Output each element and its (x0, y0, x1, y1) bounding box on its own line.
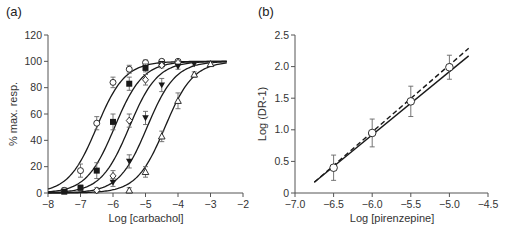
y-tick-label: 80 (30, 81, 42, 93)
filled-square-marker (94, 168, 100, 174)
y-tick-label: 40 (30, 134, 42, 146)
open-circle-marker (94, 120, 100, 126)
filled-square-marker (61, 189, 67, 195)
open-circle-marker (407, 98, 415, 106)
y-tick-label: 20 (30, 160, 42, 172)
y-tick-label: 120 (24, 29, 42, 41)
panel-a-plot: 020406080100120−8−7−6−5−4−3−2 (24, 29, 249, 211)
fitted-curve (48, 61, 227, 192)
filled-inverted-triangle-marker (110, 180, 117, 186)
panel-b-x-axis-title: Log [pirenzepine] (350, 212, 434, 224)
panel-a-label: (a) (6, 4, 22, 19)
figure: (a) Log [carbachol] % max. resp. 0204060… (0, 0, 510, 237)
y-tick-label: 100 (24, 55, 42, 67)
y-tick-label: 2.0 (274, 60, 289, 72)
filled-inverted-triangle-marker (158, 82, 165, 88)
y-tick-label: 1.0 (274, 123, 289, 135)
filled-inverted-triangle-marker (142, 115, 149, 121)
filled-inverted-triangle-marker (126, 159, 133, 165)
panel-a-x-axis-title: Log [carbachol] (108, 212, 183, 224)
x-tick-label: −3 (205, 198, 217, 210)
fitted-curve (48, 61, 227, 191)
x-tick-label: −6.5 (323, 198, 344, 210)
chart-canvas: (a) Log [carbachol] % max. resp. 0204060… (0, 0, 510, 237)
y-tick-label: 2.5 (274, 29, 289, 41)
x-tick-label: −4 (172, 198, 184, 210)
filled-square-marker (143, 65, 149, 71)
regression-line (314, 56, 468, 182)
panel-a-y-axis-title: % max. resp. (7, 82, 19, 146)
open-circle-marker (368, 129, 376, 137)
fitted-curve (48, 61, 227, 189)
open-circle-marker (330, 164, 338, 172)
x-tick-label: −5.0 (439, 198, 460, 210)
x-tick-label: −5 (140, 198, 152, 210)
open-circle-marker (110, 79, 116, 85)
y-tick-label: 0 (283, 187, 289, 199)
x-tick-label: −4.5 (478, 198, 499, 210)
x-tick-label: −7.0 (285, 198, 306, 210)
filled-square-marker (78, 185, 84, 191)
open-triangle-marker (175, 97, 182, 103)
panel-b-y-axis-title: Log (DR-1) (256, 87, 268, 141)
x-tick-label: −2 (237, 198, 249, 210)
x-tick-label: −5.5 (400, 198, 421, 210)
x-tick-label: −6 (107, 198, 119, 210)
panel-b-label: (b) (258, 4, 274, 19)
fitted-curve (48, 62, 227, 193)
x-tick-label: −6.0 (362, 198, 383, 210)
y-tick-label: 0.5 (274, 155, 289, 167)
open-triangle-marker (158, 133, 165, 139)
y-tick-label: 60 (30, 108, 42, 120)
x-tick-label: −7 (75, 198, 87, 210)
y-tick-label: 0 (36, 187, 42, 199)
open-circle-marker (446, 63, 454, 71)
filled-square-marker (110, 119, 116, 125)
filled-square-marker (126, 81, 132, 87)
open-circle-marker (126, 66, 132, 72)
x-tick-label: −8 (42, 198, 54, 210)
open-circle-marker (78, 168, 84, 174)
panel-b-plot: 00.51.01.52.02.5−7.0−6.5−6.0−5.5−5.0−4.5 (274, 29, 498, 211)
y-tick-label: 1.5 (274, 92, 289, 104)
